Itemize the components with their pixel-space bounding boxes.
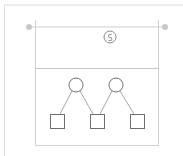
edge-c2-s3 [120, 91, 134, 114]
node-square-3 [131, 115, 145, 129]
edge-c1-s2 [80, 91, 93, 114]
edge-c2-s2 [100, 91, 112, 114]
node-square-2 [91, 115, 105, 129]
top-rail [26, 24, 168, 30]
node-circle-2 [109, 78, 123, 92]
s-symbol: S [104, 31, 116, 43]
node-square-1 [51, 115, 65, 129]
connectors [60, 91, 134, 114]
top-nodes [69, 78, 123, 92]
diagram-canvas: S [0, 0, 183, 156]
edge-c1-s1 [60, 91, 72, 114]
bottom-nodes [51, 115, 145, 129]
left-rail-dot [26, 24, 32, 30]
node-circle-1 [69, 78, 83, 92]
right-rail-dot [162, 24, 168, 30]
s-symbol-label: S [107, 34, 112, 43]
